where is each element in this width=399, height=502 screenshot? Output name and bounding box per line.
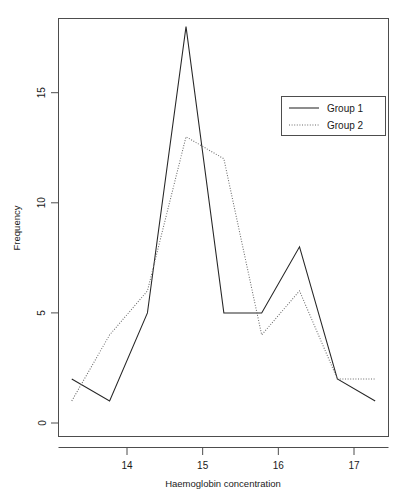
- y-tick-group: [51, 93, 59, 423]
- x-tick-label: 16: [273, 460, 285, 471]
- legend-label-group-1: Group 1: [327, 103, 364, 114]
- y-tick-label: 10: [37, 197, 48, 209]
- chart-legend: Group 1 Group 2: [282, 97, 386, 136]
- chart-container: 051015 Frequency 14151617 Haemoglobin co…: [0, 0, 399, 502]
- series-line-group-1: [72, 27, 375, 401]
- plot-panel-border: [59, 19, 389, 437]
- y-tick-label: 15: [37, 87, 48, 99]
- y-tick-label-group: 051015: [37, 87, 48, 426]
- x-tick-label-group: 14151617: [121, 460, 360, 471]
- line-chart: 051015 Frequency 14151617 Haemoglobin co…: [0, 0, 399, 502]
- x-tick-label: 15: [197, 460, 209, 471]
- x-tick-group: [127, 448, 354, 456]
- y-tick-label: 5: [37, 310, 48, 316]
- x-axis-title: Haemoglobin concentration: [165, 478, 281, 489]
- series-line-group-2: [72, 137, 375, 401]
- x-tick-label: 17: [348, 460, 360, 471]
- y-axis: 051015 Frequency: [11, 87, 59, 426]
- legend-label-group-2: Group 2: [327, 120, 364, 131]
- y-axis-title: Frequency: [11, 205, 22, 250]
- x-axis: 14151617 Haemoglobin concentration: [59, 448, 389, 490]
- series-group: [72, 27, 375, 401]
- x-tick-label: 14: [121, 460, 133, 471]
- y-tick-label: 0: [37, 420, 48, 426]
